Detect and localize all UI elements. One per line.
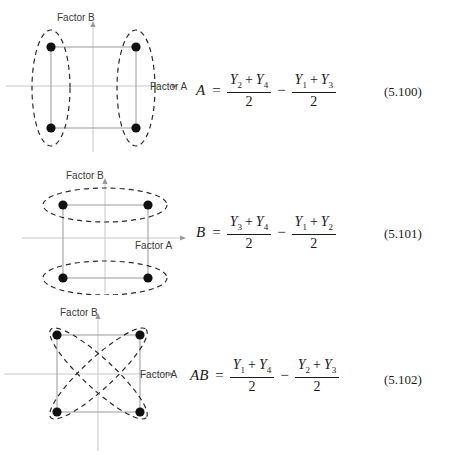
y-symbol: Y1 — [295, 72, 307, 87]
equation-number-ab: (5.102) — [384, 372, 422, 388]
y-symbol: Y1 — [295, 214, 307, 229]
equation-a-term1-numerator: Y2+Y4 — [227, 72, 272, 92]
y-symbol: Y4 — [259, 357, 271, 372]
y-axis — [102, 178, 107, 293]
equation-a-term2-denominator: 2 — [307, 93, 320, 109]
y-axis — [95, 313, 100, 451]
equation-ab-term2-numerator: Y2+Y3 — [295, 357, 340, 377]
equation-b-lhs: B — [196, 225, 210, 240]
y-subscript: 4 — [267, 365, 272, 375]
equation-number-a: (5.100) — [384, 84, 422, 100]
equation-a-term1-denominator: 2 — [242, 93, 255, 109]
y-subscript: 4 — [264, 80, 269, 90]
equation-ab-lhs: AB — [190, 368, 213, 383]
y-subscript: 2 — [329, 222, 334, 232]
equation-b-term2-denominator: 2 — [307, 235, 320, 251]
y-symbol: Y2 — [230, 72, 242, 87]
y-symbol: Y1 — [233, 357, 245, 372]
equation-a-lhs: A — [196, 83, 210, 98]
equation-a-term2: Y1+Y3 2 — [292, 72, 337, 109]
equation-ab-term2: Y2+Y3 2 — [295, 357, 340, 394]
equation-number-b: (5.101) — [384, 226, 422, 242]
y-axis-label: Factor B — [57, 12, 95, 23]
equation-b: B = Y3+Y4 2 − Y1+Y2 2 — [196, 214, 356, 251]
equation-ab-expression: AB = Y1+Y4 2 − Y2+Y3 2 — [190, 357, 339, 394]
effect-b-block: Factor B Factor A B = Y3+Y4 2 − Y1+Y2 2 — [0, 155, 451, 295]
y-axis-label: Factor B — [60, 307, 98, 318]
x-axis-label: Factor A — [135, 240, 172, 251]
plus-operator: + — [242, 214, 256, 229]
plus-operator: + — [242, 72, 256, 87]
equation-ab: AB = Y1+Y4 2 − Y2+Y3 2 — [190, 357, 350, 394]
factor-a-main-effect-diagram — [0, 0, 196, 155]
equation-a-relation: = — [210, 83, 226, 98]
equation-b-term2-numerator: Y1+Y2 — [292, 214, 337, 234]
equation-ab-operator: − — [274, 368, 294, 383]
plus-operator: + — [307, 214, 321, 229]
equation-b-operator: − — [271, 225, 291, 240]
plus-operator: + — [245, 357, 259, 372]
y-symbol: Y4 — [256, 214, 268, 229]
equation-a-term1: Y2+Y4 2 — [227, 72, 272, 109]
plus-operator: + — [307, 72, 321, 87]
y-subscript: 4 — [264, 222, 269, 232]
equation-b-term2: Y1+Y2 2 — [292, 214, 337, 251]
y-symbol: Y3 — [324, 357, 336, 372]
equation-ab-term1-denominator: 2 — [246, 378, 259, 394]
x-axis-label: Factor A — [150, 81, 187, 92]
figure-page: Factor B Factor A A = Y2+Y4 2 − Y1+Y3 2 … — [0, 0, 451, 455]
equation-a-term2-numerator: Y1+Y3 — [292, 72, 337, 92]
equation-ab-term1-numerator: Y1+Y4 — [230, 357, 275, 377]
y-symbol: Y3 — [321, 72, 333, 87]
y-axis-label: Factor B — [66, 170, 104, 181]
x-axis-label: Factor A — [140, 369, 177, 380]
equation-a: A = Y2+Y4 2 − Y1+Y3 2 — [196, 72, 356, 109]
equation-b-expression: B = Y3+Y4 2 − Y1+Y2 2 — [196, 214, 336, 251]
y-symbol: Y2 — [321, 214, 333, 229]
equation-ab-term2-denominator: 2 — [311, 378, 324, 394]
y-subscript: 3 — [332, 365, 337, 375]
equation-b-term1-denominator: 2 — [242, 235, 255, 251]
equation-b-term1: Y3+Y4 2 — [227, 214, 272, 251]
equation-a-expression: A = Y2+Y4 2 − Y1+Y3 2 — [196, 72, 336, 109]
equation-b-relation: = — [210, 225, 226, 240]
y-symbol: Y4 — [256, 72, 268, 87]
y-symbol: Y3 — [230, 214, 242, 229]
y-symbol: Y2 — [298, 357, 310, 372]
equation-ab-relation: = — [213, 368, 229, 383]
equation-a-operator: − — [271, 83, 291, 98]
plus-operator: + — [310, 357, 324, 372]
equation-b-term1-numerator: Y3+Y4 — [227, 214, 272, 234]
y-subscript: 3 — [329, 80, 334, 90]
equation-ab-term1: Y1+Y4 2 — [230, 357, 275, 394]
effect-a-block: Factor B Factor A A = Y2+Y4 2 − Y1+Y3 2 — [0, 0, 451, 155]
